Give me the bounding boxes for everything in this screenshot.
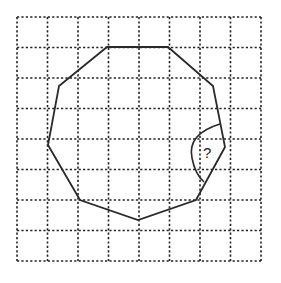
nonagon-shape	[48, 47, 225, 220]
dashed-grid	[17, 17, 261, 261]
unknown-angle-label: ?	[203, 144, 211, 161]
nonagon-grid-diagram: ?	[0, 0, 281, 283]
